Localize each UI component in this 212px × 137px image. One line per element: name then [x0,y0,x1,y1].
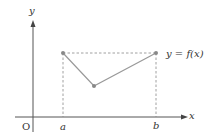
x-axis-arrow-icon [181,115,188,120]
y-axis-label: y [29,6,35,16]
function-graph-diagram: y x O a b y = f(x) [0,0,212,137]
tick-label-a: a [60,122,66,132]
graph-canvas [0,0,212,137]
point-left-endpoint [61,51,65,55]
point-minimum [92,84,96,88]
x-axis-label: x [189,111,195,121]
origin-label: O [22,122,30,132]
y-axis-arrow-icon [31,20,36,27]
function-curve [63,53,156,86]
point-right-endpoint [154,51,158,55]
tick-label-b: b [153,121,159,131]
function-label: y = f(x) [166,49,204,59]
